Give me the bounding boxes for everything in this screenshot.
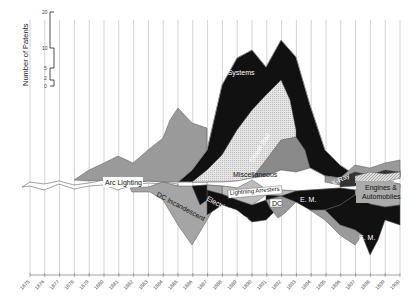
x-tick-label: 1883: [137, 278, 149, 290]
label-engines: Engines &: [365, 184, 397, 192]
x-tick-label: 1896: [329, 278, 341, 290]
streams: [22, 40, 400, 255]
y-axis-title: Number of Patents: [21, 23, 30, 86]
x-tick-label: 1900: [388, 278, 400, 290]
x-tick-label: 1881: [107, 278, 119, 290]
x-tick-label: 1887: [196, 278, 208, 290]
label-em-2: E. M.: [359, 234, 375, 241]
y-scale-2: 2: [44, 75, 47, 81]
x-tick-label: 1888: [211, 278, 223, 290]
x-tick-label: 1898: [359, 278, 371, 290]
y-scale-20: 20: [42, 9, 48, 15]
y-scale-10: 10: [42, 45, 48, 51]
x-tick-label: 1890: [240, 278, 252, 290]
x-tick-label: 1899: [374, 278, 386, 290]
x-tick-label: 1886: [181, 278, 193, 290]
x-tick-label: 1882: [122, 278, 134, 290]
x-tick-label: 1878: [63, 278, 75, 290]
label-automobiles: Automobiles: [362, 193, 401, 200]
label-arc-lighting: Arc Lighting: [105, 179, 142, 187]
y-scale-5: 5: [44, 65, 47, 71]
x-tick-label: 1877: [48, 278, 60, 290]
x-tick-label: 1893: [285, 278, 297, 290]
x-tick-label: 1880: [92, 278, 104, 290]
x-axis-ticks: 1875187618771878187918801881188218831884…: [18, 273, 400, 291]
x-tick-label: 1875: [18, 278, 30, 290]
x-tick-label: 1876: [33, 278, 45, 290]
x-tick-label: 1895: [314, 278, 326, 290]
y-scale-0: 0: [44, 83, 47, 89]
x-tick-label: 1889: [226, 278, 238, 290]
label-ac-systems: AC Systems: [216, 69, 255, 77]
x-tick-label: 1894: [300, 278, 312, 290]
x-tick-label: 1892: [270, 278, 282, 290]
x-tick-label: 1879: [78, 278, 90, 290]
label-miscellaneous: Miscellaneous: [233, 171, 278, 178]
x-tick-label: 1885: [166, 278, 178, 290]
y-scale-bracket: [50, 12, 54, 86]
label-em-1: E. M.: [300, 196, 316, 203]
label-dc: DC: [272, 200, 282, 207]
x-tick-label: 1891: [255, 278, 267, 290]
x-tick-label: 1897: [344, 278, 356, 290]
streamgraph-chart: 1875187618771878187918801881188218831884…: [0, 0, 420, 303]
x-tick-label: 1884: [152, 278, 164, 290]
